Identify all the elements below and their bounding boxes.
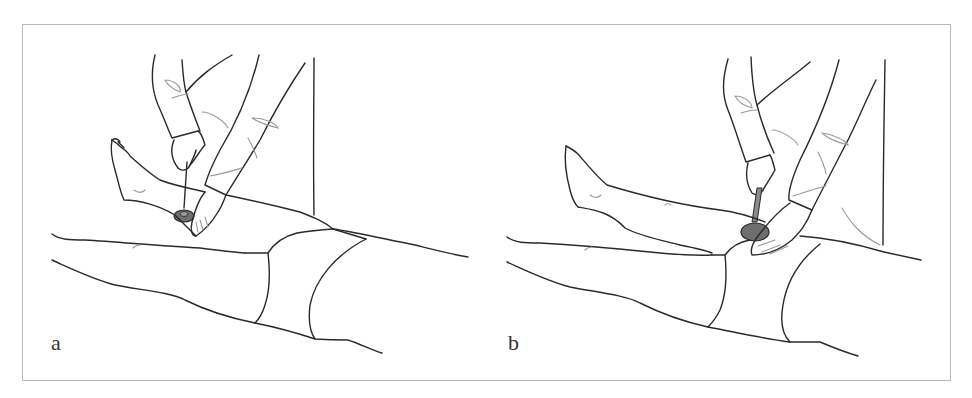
panel-b-illustration xyxy=(507,57,921,356)
panel-a-illustration xyxy=(52,55,468,353)
hammer-head-icon-b xyxy=(741,223,769,241)
panel-label-b: b xyxy=(508,332,519,354)
figure-illustration xyxy=(0,0,972,398)
panel-label-a: a xyxy=(51,332,61,354)
